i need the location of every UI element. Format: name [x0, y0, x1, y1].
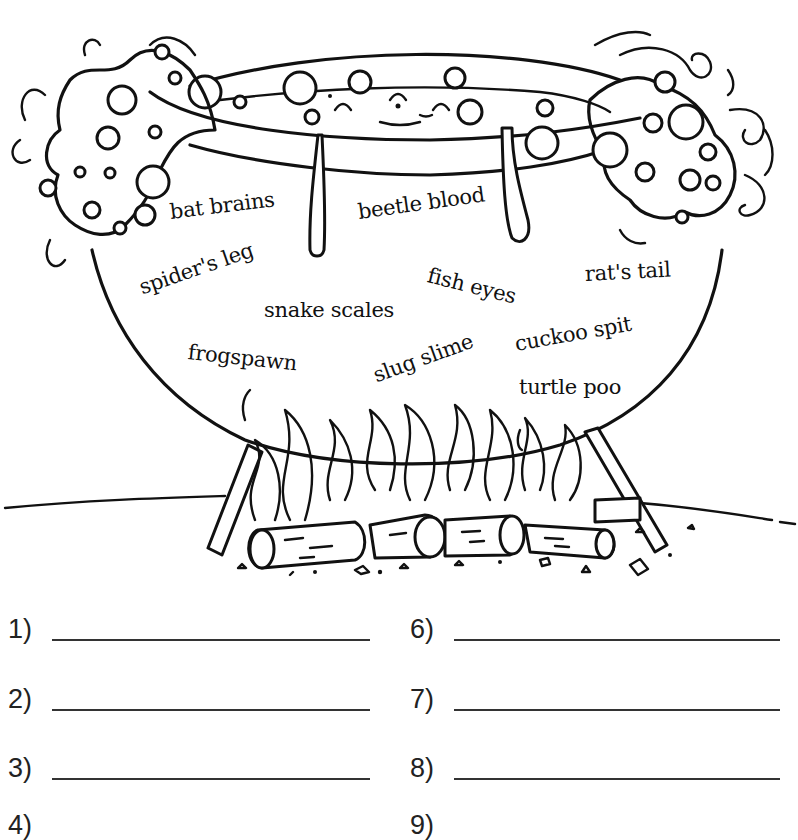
answer-blank[interactable] [52, 709, 370, 711]
answer-section: 1) 2) 3) 4) 6) 7) 8) 9) [0, 600, 798, 836]
answer-row-2[interactable]: 2) [8, 686, 370, 713]
ingredient-snake-scales: snake scales [264, 298, 394, 322]
left-foam [13, 38, 215, 267]
answer-number: 3) [8, 755, 44, 782]
drip-left [310, 135, 325, 256]
answer-row-7[interactable]: 7) [410, 686, 780, 713]
answer-blank[interactable] [52, 778, 370, 780]
answer-row-9[interactable]: 9) [410, 812, 446, 839]
ingredient-rats-tail: rat's tail [584, 258, 671, 286]
answer-number: 6) [410, 616, 446, 643]
answer-number: 9) [410, 812, 446, 839]
answer-blank[interactable] [454, 639, 780, 641]
answer-row-1[interactable]: 1) [8, 616, 370, 643]
answer-number: 8) [410, 755, 446, 782]
right-foam [589, 32, 773, 243]
answer-number: 1) [8, 616, 44, 643]
answer-row-8[interactable]: 8) [410, 755, 780, 782]
answer-number: 7) [410, 686, 446, 713]
fire-flames [243, 390, 581, 520]
answer-number: 2) [8, 686, 44, 713]
answer-blank[interactable] [52, 639, 370, 641]
cauldron-rim-outer [190, 54, 620, 86]
cauldron-illustration [0, 0, 798, 600]
answer-row-6[interactable]: 6) [410, 616, 780, 643]
answer-blank[interactable] [454, 709, 780, 711]
answer-number: 4) [8, 812, 44, 839]
answer-row-3[interactable]: 3) [8, 755, 370, 782]
answer-row-4[interactable]: 4) [8, 812, 44, 839]
ingredient-turtle-poo: turtle poo [519, 375, 621, 399]
cauldron-drawing [0, 0, 798, 600]
answer-blank[interactable] [454, 778, 780, 780]
